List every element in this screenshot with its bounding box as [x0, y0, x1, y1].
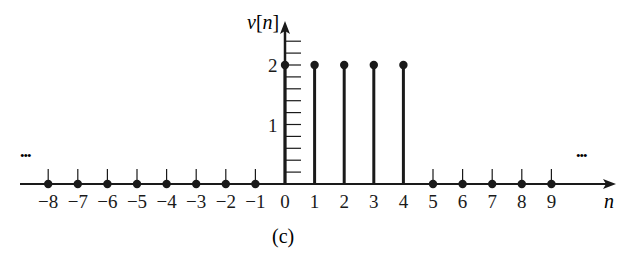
x-tick-label: −7 — [68, 191, 88, 212]
stem-marker — [162, 180, 170, 188]
x-tick-label: −8 — [38, 191, 58, 212]
axes — [20, 21, 616, 189]
y-tick-label-1: 1 — [268, 115, 278, 136]
x-tick-label: 1 — [310, 191, 320, 212]
x-tick-label: 7 — [487, 191, 497, 212]
x-tick-label: −4 — [156, 191, 177, 212]
stem-marker — [547, 180, 555, 188]
x-tick-label: 9 — [547, 191, 557, 212]
x-tick-label: 8 — [517, 191, 527, 212]
stem-marker — [310, 61, 318, 69]
stem-marker — [518, 180, 526, 188]
y-axis-label: v[n] — [247, 11, 279, 33]
stem-plot: 12 −8−7−6−5−4−3−2−10123456789 v[n] n •••… — [0, 0, 632, 255]
ellipsis-right: ••• — [576, 148, 587, 163]
stem-marker — [370, 61, 378, 69]
stem-marker — [340, 61, 348, 69]
stem-marker — [103, 180, 111, 188]
x-axis-label: n — [604, 190, 614, 212]
stem-marker — [429, 180, 437, 188]
stem-marker — [44, 180, 52, 188]
stem-marker — [192, 180, 200, 188]
y-axis-label-part: ] — [273, 11, 280, 33]
x-tick-labels: −8−7−6−5−4−3−2−10123456789 — [38, 191, 556, 212]
figure-caption: (c) — [272, 225, 294, 248]
x-tick-label: 6 — [458, 191, 468, 212]
x-tick-label: 0 — [280, 191, 290, 212]
y-axis-label-part: v — [247, 11, 256, 33]
ellipsis-left: ••• — [20, 148, 31, 163]
x-tick-label: −5 — [127, 191, 147, 212]
x-tick-label: 5 — [428, 191, 438, 212]
x-tick-label: −6 — [97, 191, 117, 212]
y-tick-label-2: 2 — [268, 55, 278, 76]
x-tick-label: −2 — [216, 191, 236, 212]
x-tick-label: −3 — [186, 191, 206, 212]
x-tick-label: 4 — [399, 191, 409, 212]
stem-marker — [281, 61, 289, 69]
x-tick-label: 2 — [339, 191, 349, 212]
stem-marker — [133, 180, 141, 188]
x-tick-label: −1 — [245, 191, 265, 212]
stem-marker — [74, 180, 82, 188]
stem-marker — [399, 61, 407, 69]
x-tick-label: 3 — [369, 191, 379, 212]
stem-marker — [251, 180, 259, 188]
stem-marker — [488, 180, 496, 188]
y-axis-label-part: [ — [256, 11, 263, 33]
y-axis-label-part: n — [263, 11, 273, 33]
stem-marker — [458, 180, 466, 188]
stem-marker — [222, 180, 230, 188]
